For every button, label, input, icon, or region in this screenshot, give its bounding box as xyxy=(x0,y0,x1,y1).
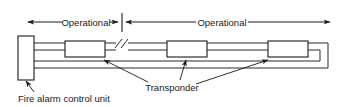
fire-alarm-control-unit-leader xyxy=(26,81,34,92)
fire-alarm-circuit-diagram: Operational Operational xyxy=(0,0,340,107)
transponder-1-box xyxy=(65,41,105,57)
transponder-leaders xyxy=(104,60,268,84)
diagram-canvas: Operational Operational xyxy=(0,0,340,107)
transponder-2-box xyxy=(167,41,207,57)
transponder-3-box xyxy=(268,41,308,57)
transponder-label: Transponder xyxy=(145,82,199,93)
fire-alarm-control-unit-label: Fire alarm control unit xyxy=(18,93,110,104)
dimension-operational-right: Operational xyxy=(126,17,330,28)
operational-left-label: Operational xyxy=(61,17,110,28)
loopback-turnarounds xyxy=(320,43,328,68)
conductor-lower-pair xyxy=(34,61,328,68)
fire-alarm-control-unit-box xyxy=(18,36,34,80)
operational-right-label: Operational xyxy=(197,17,246,28)
dimension-operational-left: Operational xyxy=(28,17,118,28)
conductor-break-symbol xyxy=(115,39,128,48)
